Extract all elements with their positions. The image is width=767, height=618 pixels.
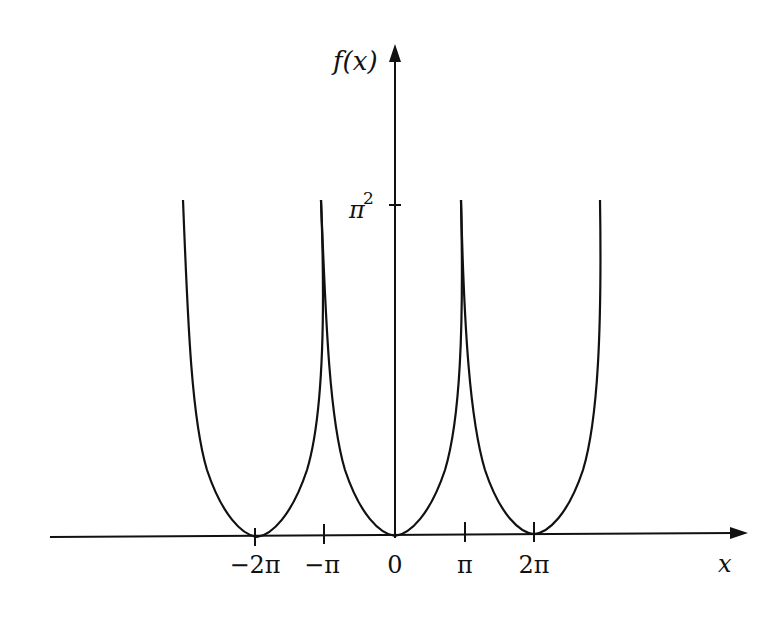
x-tick-label-minus-pi: −π bbox=[304, 551, 340, 579]
y-axis-arrow-icon bbox=[389, 44, 401, 62]
x-axis-arrow-icon bbox=[730, 527, 748, 539]
y-axis-label: f(x) bbox=[331, 46, 378, 76]
arc-center-minus-2pi bbox=[183, 200, 323, 537]
x-tick-label-2pi: 2π bbox=[518, 551, 549, 579]
x-tick-label-zero: 0 bbox=[387, 551, 402, 579]
x-axis-label: x bbox=[718, 550, 732, 578]
arc-center-2pi bbox=[461, 200, 600, 534]
x-tick-label-minus-2pi: −2π bbox=[229, 551, 280, 579]
y-tick-label-exponent: 2 bbox=[363, 188, 374, 208]
arc-center-0 bbox=[321, 200, 462, 536]
function-curves bbox=[183, 200, 600, 537]
function-plot: f(x) π 2 −2π −π 0 π 2π x bbox=[0, 0, 767, 618]
x-tick-label-pi: π bbox=[457, 551, 473, 579]
